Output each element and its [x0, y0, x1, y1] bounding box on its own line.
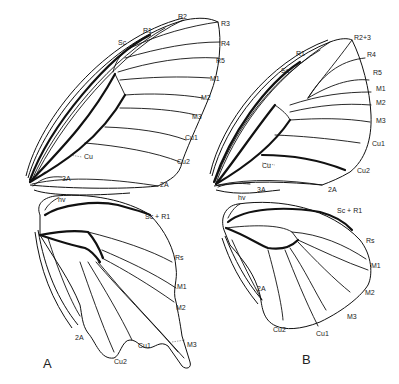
- panel-letter-a: A: [43, 356, 52, 371]
- label-a-hw-m2: M2: [176, 304, 186, 311]
- label-a-fw-r3: R3: [221, 20, 230, 27]
- label-b-hw-rs: Rs: [366, 237, 375, 244]
- label-b-fw-m1: M1: [376, 85, 386, 92]
- wing-venation-figure: Sc R1 R2 R3 R4 R5 M1 M2 M3 Cu1 Cu2 Cu 2A…: [0, 0, 399, 384]
- label-b-hw-m1: M1: [371, 262, 381, 269]
- label-b-fw-r5: R5: [373, 69, 382, 76]
- label-a-fw-r4: R4: [221, 40, 230, 47]
- label-b-hw-hv: hv: [238, 194, 245, 201]
- label-b-hw-cu1: Cu1: [316, 330, 329, 337]
- label-a-hw-hv: hv: [58, 196, 65, 203]
- label-a-hw-cu1: Cu1: [138, 342, 151, 349]
- label-b-fw-cu1: Cu1: [372, 140, 385, 147]
- label-b-hw-m3: M3: [347, 313, 357, 320]
- label-b-hw-scr1: Sc + R1: [337, 207, 362, 214]
- label-a-fw-m1: M1: [210, 75, 220, 82]
- label-a-fw-r5: R5: [216, 57, 225, 64]
- venation-drawing: [0, 0, 399, 384]
- label-a-hw-cu2: Cu2: [114, 358, 127, 365]
- label-b-fw-r4: R4: [367, 51, 376, 58]
- label-b-fw-cu2: Cu2: [357, 167, 370, 174]
- label-a-fw-m3: M3: [192, 113, 202, 120]
- label-b-fw-2a: 2A: [328, 186, 337, 193]
- label-a-fw-cu1: Cu1: [185, 134, 198, 141]
- label-a-hw-m3: M3: [187, 341, 197, 348]
- label-b-fw-r1: R1: [296, 50, 305, 57]
- label-a-fw-3a: 3A: [62, 175, 71, 182]
- forewing-b: [210, 39, 371, 193]
- label-b-hw-m2: M2: [365, 289, 375, 296]
- label-a-fw-2a: 2A: [160, 181, 169, 188]
- label-b-fw-r23: R2+3: [354, 34, 371, 41]
- hindwing-a: [35, 195, 190, 368]
- label-a-hw-rs: Rs: [175, 254, 184, 261]
- hindwing-b: [222, 202, 371, 328]
- label-b-fw-m2: M2: [376, 99, 386, 106]
- label-a-fw-cu2: Cu2: [177, 158, 190, 165]
- label-b-hw-cu2: Cu2: [273, 326, 286, 333]
- label-b-fw-3a: 3A: [257, 186, 266, 193]
- panel-letter-b: B: [302, 352, 311, 367]
- label-a-hw-2a: 2A: [75, 334, 84, 341]
- label-a-fw-r2: R2: [178, 13, 187, 20]
- label-b-hw-2a: 2A: [257, 285, 266, 292]
- label-a-fw-m2: M2: [201, 94, 211, 101]
- label-a-fw-sc: Sc: [118, 39, 126, 46]
- label-b-fw-sc: Sc: [281, 67, 289, 74]
- label-b-fw-m3: M3: [376, 117, 386, 124]
- label-a-hw-scr1: Sc + R1: [145, 213, 170, 220]
- label-b-fw-cu: Cu: [262, 162, 271, 169]
- label-a-fw-r1: R1: [143, 27, 152, 34]
- label-a-hw-m1: M1: [177, 283, 187, 290]
- label-a-fw-cu: Cu: [84, 153, 93, 160]
